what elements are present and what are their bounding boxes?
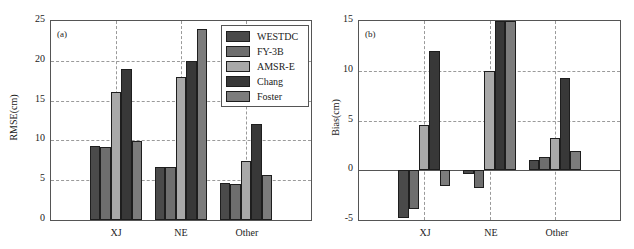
bar-foster-xj [440, 170, 450, 186]
gridline-vertical [555, 21, 556, 220]
y-axis-label: Bias(cm) [330, 78, 341, 158]
bar-westdc-other [529, 160, 539, 170]
bar-chang-ne [186, 61, 196, 220]
bar-amsre-xj [111, 92, 121, 220]
x-tick-other: Other [532, 227, 582, 238]
panel-label: (b) [365, 29, 376, 39]
legend-item-chang: Chang [226, 74, 304, 89]
bar-foster-other [262, 175, 272, 220]
bar-fy3b-other [230, 184, 240, 220]
bar-fy3b-other [539, 157, 549, 170]
gridline-horizontal [359, 71, 620, 72]
plot-area: (b) [358, 20, 621, 221]
y-tick-label: 5 [333, 113, 353, 124]
legend-swatch [226, 31, 250, 42]
gridline-horizontal [359, 121, 620, 122]
y-tick-label: 15 [25, 93, 45, 104]
zero-line [359, 170, 620, 171]
bar-fy3b-xj [409, 170, 419, 209]
bar-amsre-xj [419, 125, 429, 170]
x-tick-other: Other [222, 227, 272, 238]
y-tick-label: 0 [25, 212, 45, 223]
gridline-vertical [424, 21, 425, 220]
bar-chang-xj [429, 51, 439, 170]
bar-amsre-ne [484, 71, 494, 171]
bar-westdc-other [220, 183, 230, 220]
legend-item-amsre: AMSR-E [226, 59, 304, 74]
legend-swatch [226, 46, 250, 57]
bar-chang-other [560, 78, 570, 171]
y-tick-label: -5 [333, 212, 353, 223]
x-tick-ne: NE [466, 227, 516, 238]
bar-amsre-other [550, 138, 560, 170]
bar-foster-xj [132, 141, 142, 220]
bar-westdc-xj [90, 146, 100, 220]
y-tick-label: 20 [25, 53, 45, 64]
x-tick-xj: XJ [91, 227, 141, 238]
bar-foster-ne [505, 21, 515, 170]
bar-amsre-other [241, 161, 251, 220]
y-tick-label: 15 [333, 13, 353, 24]
bar-foster-other [570, 151, 580, 170]
bar-westdc-ne [463, 170, 473, 174]
y-tick-label: 25 [25, 13, 45, 24]
legend-swatch [226, 61, 250, 72]
legend-item-foster: Foster [226, 89, 304, 104]
bar-fy3b-ne [165, 167, 175, 220]
gridline-vertical [490, 21, 491, 220]
bar-westdc-ne [155, 167, 165, 220]
y-tick-label: 10 [25, 132, 45, 143]
bar-chang-xj [121, 69, 131, 220]
y-tick-label: 5 [25, 172, 45, 183]
bar-fy3b-ne [474, 170, 484, 188]
bar-westdc-xj [398, 170, 408, 218]
x-tick-ne: NE [156, 227, 206, 238]
bar-chang-ne [495, 21, 505, 170]
bar-amsre-ne [176, 77, 186, 220]
panel-a-rmse: RMSE(cm) 0510152025 (a) WESTDC FY-3B AMS… [0, 0, 320, 249]
bar-chang-other [251, 124, 261, 220]
bar-foster-ne [197, 29, 207, 220]
bar-fy3b-xj [100, 147, 110, 220]
panel-label: (a) [57, 29, 67, 39]
x-tick-xj: XJ [400, 227, 450, 238]
y-tick-label: 10 [333, 63, 353, 74]
plot-area: (a) WESTDC FY-3B AMSR-E Chang Foster [50, 20, 312, 221]
legend-swatch [226, 76, 250, 87]
legend-item-fy3b: FY-3B [226, 44, 304, 59]
legend: WESTDC FY-3B AMSR-E Chang Foster [221, 25, 309, 107]
y-tick-label: 0 [333, 162, 353, 173]
y-axis-label: RMSE(cm) [8, 78, 19, 158]
legend-swatch [226, 91, 250, 102]
legend-item-westdc: WESTDC [226, 29, 304, 44]
